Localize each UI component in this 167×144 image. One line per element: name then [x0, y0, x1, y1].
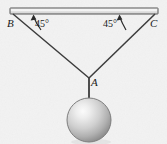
label-angle-right: 45° — [103, 19, 117, 29]
figure-canvas — [0, 0, 167, 144]
physics-figure-sphere-on-two-cords: B C A 45° 45° — [0, 0, 167, 144]
sphere — [67, 98, 111, 142]
label-point-b: B — [7, 18, 14, 29]
label-angle-left: 45° — [35, 19, 49, 29]
label-point-a: A — [91, 77, 98, 88]
ceiling-bar — [10, 8, 158, 14]
label-point-c: C — [150, 18, 157, 29]
